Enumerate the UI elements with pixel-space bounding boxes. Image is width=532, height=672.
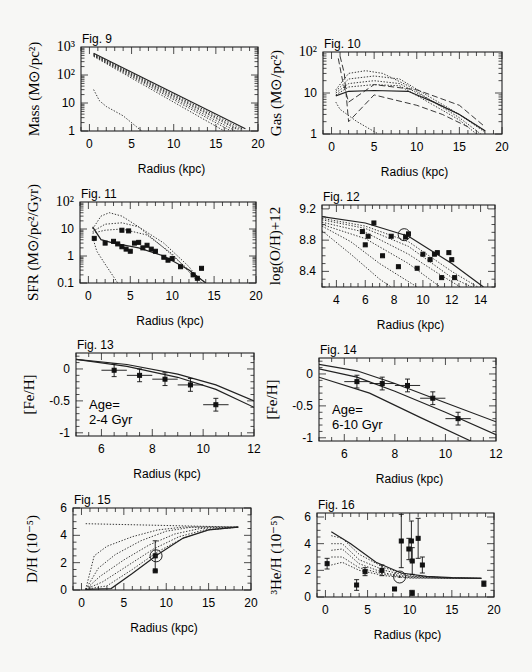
series-model-5 <box>94 56 231 131</box>
x-tick-label: 20 <box>487 603 501 617</box>
y-tick-label: 0 <box>304 590 311 604</box>
age-note: Age= <box>332 402 363 417</box>
fig10-chart: 0510152011010²Fig. 10Radius (kpc)Gas (M⊙… <box>268 37 509 179</box>
data-point <box>410 591 414 595</box>
plot-series <box>336 56 485 134</box>
series-model-6 <box>322 231 391 287</box>
data-point <box>420 563 424 567</box>
data-point <box>380 568 384 572</box>
data-point <box>112 368 116 372</box>
x-tick-label: 8 <box>392 447 399 461</box>
y-tick-label: 10² <box>299 44 317 59</box>
age-note: Age= <box>89 397 120 412</box>
y-tick-label: 0 <box>306 367 313 381</box>
y-tick-label: 10³ <box>57 39 75 54</box>
y-tick-label: -1 <box>59 426 70 440</box>
data-point <box>195 276 199 280</box>
data-point <box>138 373 142 377</box>
y-tick-label: 0 <box>63 362 70 376</box>
data-point <box>132 241 136 245</box>
data-point <box>120 228 124 232</box>
x-tick-label: 10 <box>403 603 417 617</box>
series-model-solid <box>93 227 206 283</box>
data-point <box>389 234 393 238</box>
data-point <box>149 247 153 251</box>
y-tick-label: 10 <box>304 86 318 100</box>
data-point <box>153 249 157 253</box>
data-point <box>116 242 120 246</box>
fig9-chart: 0510152011010²10³Fig. 9Radius (kpc)Mass … <box>26 32 265 176</box>
data-point <box>214 403 218 407</box>
data-point <box>410 559 414 563</box>
x-axis-label: Radius (kpc) <box>136 314 203 328</box>
series-model-5 <box>336 102 379 134</box>
plot-series <box>322 217 484 287</box>
series-model-solid <box>336 91 485 131</box>
x-axis-label: Radius (kpc) <box>138 162 205 176</box>
figure-title: Fig. 12 <box>323 190 360 204</box>
series-model-2 <box>93 223 202 283</box>
data-point <box>355 380 359 384</box>
x-tick-label: 5 <box>121 596 128 610</box>
data-point <box>456 417 460 421</box>
data-point <box>415 266 419 270</box>
data-point <box>421 252 425 256</box>
series-model-2 <box>94 55 241 130</box>
y-axis-label: [Fe/H] <box>21 375 37 415</box>
fig15-chart: 051015200246Fig. 15Radius (kpc)D/H (10⁻⁵… <box>24 493 258 635</box>
y-tick-label: 9.2 <box>299 202 316 216</box>
x-tick-label: 6 <box>362 293 369 307</box>
axis-ticks <box>317 513 494 597</box>
data-point <box>409 539 413 543</box>
data-point <box>431 396 435 400</box>
x-tick-label: 0 <box>86 137 93 151</box>
plot-series <box>94 53 246 131</box>
data-point <box>188 383 192 387</box>
age-note: 6-10 Gyr <box>332 417 383 432</box>
x-tick-label: 0 <box>85 289 92 303</box>
data-point <box>428 258 432 262</box>
data-point <box>112 239 116 243</box>
x-tick-label: 5 <box>127 289 134 303</box>
data-point <box>162 255 166 259</box>
series-model-1 <box>94 54 243 129</box>
data-points <box>92 228 203 280</box>
data-point <box>200 266 204 270</box>
data-point <box>145 243 149 247</box>
x-tick-label: 6 <box>341 447 348 461</box>
series-model-4 <box>94 55 235 130</box>
fig12-chart: 4681012148.48.89.2Fig. 12Radius (kpc)log… <box>267 190 495 332</box>
y-tick-label: 0.1 <box>57 276 74 290</box>
y-tick-label: 10 <box>62 96 76 110</box>
data-point <box>482 582 486 586</box>
data-point <box>103 241 107 245</box>
x-tick-label: 10 <box>167 137 181 151</box>
x-tick-label: 12 <box>247 442 261 456</box>
y-tick-label: -0.5 <box>49 394 70 408</box>
data-point <box>360 230 364 234</box>
x-tick-label: 10 <box>196 442 210 456</box>
data-point <box>363 570 367 574</box>
x-tick-label: 8 <box>149 442 156 456</box>
x-axis-label: Radius (kpc) <box>381 165 448 179</box>
series-model-1 <box>331 536 481 579</box>
data-point <box>366 234 370 238</box>
data-point <box>166 258 170 262</box>
y-axis-label: Mass (M⊙/pc²) <box>26 42 43 137</box>
data-point <box>120 245 124 249</box>
x-tick-label: 5 <box>371 140 378 154</box>
x-tick-label: 5 <box>128 137 135 151</box>
y-tick-label: 2 <box>304 563 311 577</box>
figure-title: Fig. 13 <box>77 338 114 352</box>
series-model-6 <box>94 56 225 131</box>
x-axis-label: Radius (kpc) <box>133 467 200 481</box>
series-model-solid <box>94 53 246 129</box>
data-point <box>450 258 454 262</box>
y-tick-label: -0.5 <box>292 399 313 413</box>
data-point <box>124 247 128 251</box>
x-tick-label: 8 <box>391 293 398 307</box>
y-axis-label: Gas (M⊙/pc²) <box>268 50 285 136</box>
x-tick-label: 15 <box>453 140 467 154</box>
x-tick-label: 14 <box>474 293 488 307</box>
data-point <box>163 377 167 381</box>
